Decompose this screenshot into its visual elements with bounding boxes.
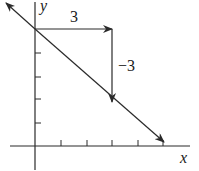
sloped-line-lower [35,29,164,142]
y-axis-label: y [38,0,48,15]
run-label: 3 [70,8,78,25]
y-axis-ticks [35,53,41,123]
slope-diagram: y x 3 −3 [0,0,199,171]
x-axis-label: x [179,149,187,166]
rise-label: −3 [118,57,135,74]
sloped-line [6,3,35,29]
x-axis-ticks [61,140,163,146]
